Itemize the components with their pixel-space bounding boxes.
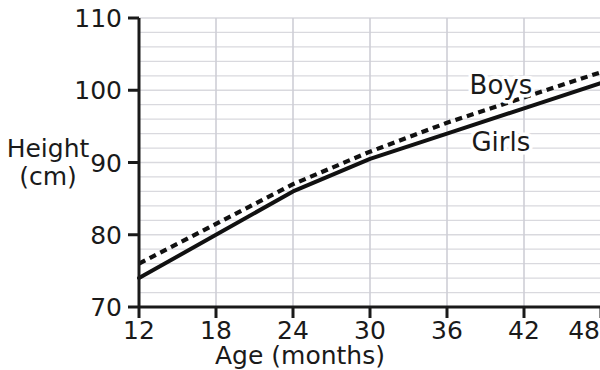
y-tick-label: 90	[90, 149, 122, 178]
x-axis-title: Age (months)	[215, 341, 385, 370]
y-axis-title-line2: (cm)	[19, 162, 77, 191]
chart-container: 708090100110 12182430364248 Age (months)…	[0, 0, 600, 370]
x-tick-label: 12	[123, 316, 155, 345]
height-vs-age-line-chart: 708090100110 12182430364248 Age (months)…	[0, 0, 600, 370]
y-tick-label: 80	[90, 221, 122, 250]
series-label-boys: Boys	[470, 70, 533, 100]
x-tick-label: 48	[568, 316, 600, 345]
y-tick-label: 100	[74, 76, 122, 105]
x-tick-label: 42	[508, 316, 540, 345]
series-label-girls: Girls	[471, 127, 530, 157]
x-tick-label: 36	[431, 316, 463, 345]
y-tick-label: 70	[90, 293, 122, 322]
y-tick-label: 110	[74, 4, 122, 33]
y-axis-title-line1: Height	[7, 134, 90, 163]
